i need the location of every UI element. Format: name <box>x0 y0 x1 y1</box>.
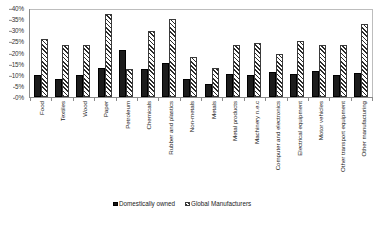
y-axis-tick-mark <box>9 31 12 32</box>
y-axis-tick-label: 30% <box>12 28 24 34</box>
frame-right-line <box>372 9 373 97</box>
x-axis-label: Food <box>39 101 45 115</box>
bar-domestically-owned <box>76 75 83 97</box>
bar-domestically-owned <box>205 84 212 97</box>
bar-chart: 0%5%10%15%20%25%30%35%40% FoodTextilesWo… <box>0 0 382 226</box>
bar-domestically-owned <box>290 74 297 97</box>
bar-group <box>287 9 308 97</box>
legend-item-global-manufacturers: Global Manufacturers <box>185 201 251 207</box>
legend-swatch-icon-domestically-owned <box>113 202 118 207</box>
bar-global-manufacturers <box>126 69 133 97</box>
bar-domestically-owned <box>183 79 190 97</box>
y-axis-tick-mark <box>9 64 12 65</box>
bar-global-manufacturers <box>169 19 176 97</box>
x-axis-label: Machinery n.e.c <box>254 101 260 144</box>
bar-group <box>30 9 51 97</box>
bar-domestically-owned <box>141 69 148 97</box>
y-axis-tick-label: 0% <box>15 95 24 101</box>
y-axis-tick-mark <box>9 53 12 54</box>
x-axis-label: Non-metals <box>189 101 195 132</box>
bar-group <box>116 9 137 97</box>
y-axis-tick-mark <box>9 20 12 21</box>
bar-global-manufacturers <box>254 43 261 97</box>
x-axis-label: Other transport equipment <box>340 101 346 172</box>
x-axis-label: Petroleum <box>125 101 131 129</box>
x-axis-label: Motor vehicles <box>318 101 324 140</box>
bar-global-manufacturers <box>212 68 219 97</box>
bar-global-manufacturers <box>105 14 112 97</box>
bar-global-manufacturers <box>297 41 304 97</box>
bar-group <box>222 9 243 97</box>
y-axis-tick-label: 10% <box>12 73 24 79</box>
bar-group <box>351 9 372 97</box>
legend-label-domestically-owned: Domestically owned <box>119 201 175 207</box>
bar-global-manufacturers <box>276 54 283 97</box>
x-axis-label: Other manufacturing <box>361 101 367 156</box>
y-axis-tick-label: 20% <box>12 50 24 56</box>
bar-domestically-owned <box>119 50 126 97</box>
y-axis-tick-mark <box>13 87 16 88</box>
bar-group <box>73 9 94 97</box>
x-axis-label: Wood <box>82 101 88 117</box>
plot-area <box>29 9 373 98</box>
bar-global-manufacturers <box>41 39 48 97</box>
y-axis-tick-label: 15% <box>12 61 24 67</box>
y-axis-tick-label: 5% <box>15 84 24 90</box>
y-axis-tick-mark <box>13 98 16 99</box>
x-axis-labels: FoodTextilesWoodPaperPetroleumChemicalsR… <box>30 101 374 193</box>
x-axis-label: Textiles <box>60 101 66 121</box>
bar-domestically-owned <box>247 75 254 97</box>
legend-swatch-icon-global-manufacturers <box>185 202 190 207</box>
x-axis-label: Rubber and plastics <box>168 101 174 155</box>
bar-group <box>51 9 72 97</box>
y-axis-tick-label: 40% <box>12 6 24 12</box>
x-axis-label: Metal products <box>232 101 238 141</box>
bar-global-manufacturers <box>62 45 69 97</box>
bar-group <box>244 9 265 97</box>
x-axis-label: Paper <box>103 101 109 117</box>
y-axis-tick-mark <box>9 42 12 43</box>
bar-group <box>329 9 350 97</box>
bar-group <box>180 9 201 97</box>
bar-global-manufacturers <box>83 45 90 97</box>
bar-domestically-owned <box>98 68 105 97</box>
bar-global-manufacturers <box>148 31 155 97</box>
bar-domestically-owned <box>34 75 41 97</box>
legend-label-global-manufacturers: Global Manufacturers <box>191 201 251 207</box>
y-axis-tick-label: 35% <box>12 17 24 23</box>
y-axis: 0%5%10%15%20%25%30%35%40% <box>0 3 27 98</box>
bar-group <box>265 9 286 97</box>
x-axis-label: Chemicals <box>146 101 152 129</box>
x-axis-label: Electrical equipment <box>297 101 303 156</box>
bar-domestically-owned <box>269 72 276 97</box>
bar-domestically-owned <box>354 73 361 97</box>
bar-global-manufacturers <box>233 45 240 97</box>
x-axis-label: Computer and electronics <box>275 101 281 170</box>
legend-item-domestically-owned: Domestically owned <box>113 201 175 207</box>
bar-global-manufacturers <box>361 24 368 97</box>
bar-global-manufacturers <box>340 45 347 97</box>
x-axis-label: Metals <box>211 101 217 119</box>
bar-domestically-owned <box>226 74 233 97</box>
bar-domestically-owned <box>55 79 62 97</box>
bar-domestically-owned <box>162 63 169 97</box>
y-axis-tick-mark <box>9 9 12 10</box>
bar-groups <box>30 9 372 97</box>
bar-global-manufacturers <box>190 57 197 97</box>
bar-group <box>308 9 329 97</box>
y-axis-tick-label: 25% <box>12 39 24 45</box>
chart-legend: Domestically owned Global Manufacturers <box>113 201 251 207</box>
bar-group <box>94 9 115 97</box>
bar-group <box>201 9 222 97</box>
bar-group <box>158 9 179 97</box>
bar-global-manufacturers <box>319 45 326 97</box>
bar-domestically-owned <box>333 75 340 97</box>
bar-group <box>137 9 158 97</box>
y-axis-tick-mark <box>9 76 12 77</box>
bar-domestically-owned <box>312 71 319 97</box>
